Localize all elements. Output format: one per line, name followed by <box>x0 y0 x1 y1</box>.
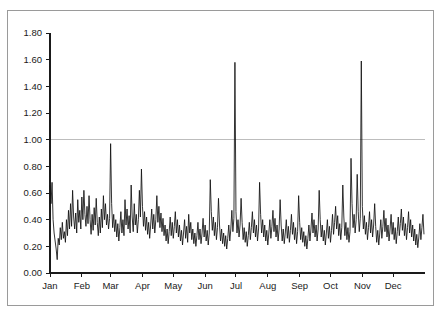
y-tick-label: 1.60 <box>24 54 43 65</box>
y-tick-label: 0.20 <box>24 241 43 252</box>
y-tick-label: 0.80 <box>24 161 43 172</box>
y-tick-label: 0.00 <box>24 267 43 278</box>
data-series-line <box>50 61 424 260</box>
line-chart: 0.000.200.400.600.801.001.201.401.601.80… <box>0 0 444 315</box>
x-tick-label: Dec <box>385 280 402 291</box>
x-tick-label: Feb <box>74 280 90 291</box>
x-tick-label: Aug <box>259 280 276 291</box>
x-tick-label: Sep <box>291 280 308 291</box>
y-tick-label: 1.80 <box>24 27 43 38</box>
y-tick-label: 1.20 <box>24 107 43 118</box>
x-axis-ticks <box>50 273 393 277</box>
x-axis-labels: JanFebMarAprMayJunJulAugSepOctNovDec <box>42 280 402 291</box>
y-axis-ticks <box>46 33 50 273</box>
x-tick-label: Jul <box>230 280 242 291</box>
x-tick-label: Oct <box>323 280 338 291</box>
x-tick-label: May <box>164 280 182 291</box>
x-tick-label: Jun <box>197 280 212 291</box>
y-tick-label: 0.60 <box>24 187 43 198</box>
y-tick-label: 1.00 <box>24 134 43 145</box>
y-axis-labels: 0.000.200.400.600.801.001.201.401.601.80 <box>24 27 43 278</box>
x-tick-label: Apr <box>135 280 150 291</box>
x-tick-label: Jan <box>42 280 57 291</box>
y-tick-label: 0.40 <box>24 214 43 225</box>
x-tick-label: Mar <box>102 280 118 291</box>
x-tick-label: Nov <box>354 280 371 291</box>
y-tick-label: 1.40 <box>24 81 43 92</box>
